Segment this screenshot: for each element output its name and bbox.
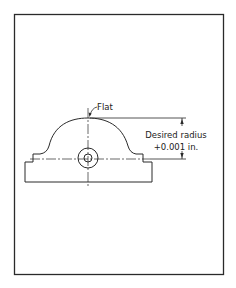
arrow-up-icon (180, 119, 183, 124)
dimension-label-desired-radius: Desired radius (145, 130, 207, 140)
dimension-label-tolerance: +0.001 in. (154, 142, 199, 152)
technical-drawing: Flat Desired radius +0.001 in. (0, 0, 236, 288)
arrow-down-icon (180, 153, 183, 158)
flat-leader-arrow-icon (89, 113, 92, 118)
arch-profile (25, 118, 143, 162)
flat-label: Flat (97, 102, 113, 112)
part-outline (25, 118, 152, 182)
